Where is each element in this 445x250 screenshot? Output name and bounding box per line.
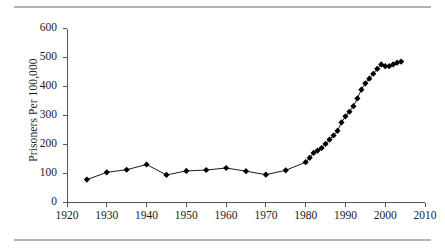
figure-container: Prisoners Per 100,000 010020030040050060… — [0, 0, 445, 250]
y-tick-label: 400 — [27, 79, 57, 91]
data-point-marker — [263, 172, 269, 178]
x-tick-label: 1960 — [206, 209, 246, 221]
y-tick-label: 200 — [27, 137, 57, 149]
chart-axes — [67, 29, 425, 203]
y-tick-label: 0 — [27, 195, 57, 207]
data-point-marker — [84, 176, 90, 182]
x-tick-label: 1990 — [325, 209, 365, 221]
data-point-marker — [124, 167, 130, 173]
chart-plot-area: Prisoners Per 100,000 010020030040050060… — [0, 0, 445, 250]
x-tick-label: 1930 — [87, 209, 127, 221]
data-point-marker — [338, 119, 344, 125]
data-point-marker — [243, 168, 249, 174]
y-tick-label: 600 — [27, 21, 57, 33]
data-point-marker — [163, 172, 169, 178]
data-point-marker — [283, 167, 289, 173]
chart-series-group — [84, 58, 404, 182]
data-point-marker — [223, 165, 229, 171]
data-point-marker — [354, 95, 360, 101]
y-tick-label: 500 — [27, 50, 57, 62]
data-point-marker — [203, 167, 209, 173]
data-point-marker — [143, 161, 149, 167]
chart-tick-marks — [63, 29, 425, 207]
x-tick-label: 1920 — [47, 209, 87, 221]
x-tick-label: 2010 — [405, 209, 445, 221]
y-tick-label: 300 — [27, 108, 57, 120]
data-point-marker — [104, 169, 110, 175]
y-tick-label: 100 — [27, 166, 57, 178]
data-point-marker — [183, 168, 189, 174]
series-line — [87, 62, 401, 180]
x-tick-label: 1950 — [166, 209, 206, 221]
data-point-marker — [350, 103, 356, 109]
data-point-marker — [358, 87, 364, 93]
x-tick-label: 2000 — [365, 209, 405, 221]
x-tick-label: 1980 — [286, 209, 326, 221]
x-tick-label: 1940 — [127, 209, 167, 221]
x-tick-label: 1970 — [246, 209, 286, 221]
